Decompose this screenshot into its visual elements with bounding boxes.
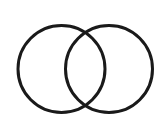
venn-diagram	[0, 0, 160, 129]
venn-circle-right	[66, 26, 153, 113]
venn-circle-left	[18, 26, 105, 113]
